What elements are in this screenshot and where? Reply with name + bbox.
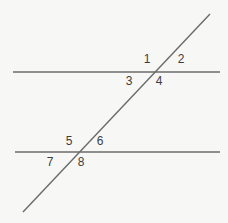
transversal-line bbox=[23, 14, 210, 212]
angle-label-4: 4 bbox=[156, 75, 163, 87]
angle-label-8: 8 bbox=[78, 156, 85, 168]
parallel-lines-transversal-diagram: 1 2 3 4 5 6 7 8 bbox=[0, 0, 228, 223]
angle-label-2: 2 bbox=[178, 53, 185, 65]
angle-label-1: 1 bbox=[144, 53, 151, 65]
geometry-canvas bbox=[0, 0, 228, 223]
angle-label-5: 5 bbox=[66, 135, 73, 147]
angle-label-3: 3 bbox=[126, 75, 133, 87]
angle-label-7: 7 bbox=[47, 156, 54, 168]
angle-label-6: 6 bbox=[97, 135, 104, 147]
